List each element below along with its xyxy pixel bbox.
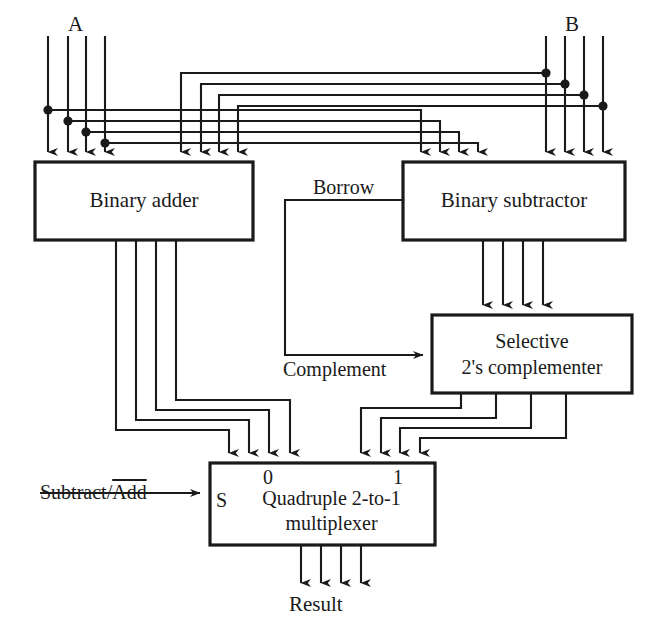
junction-dots-b bbox=[541, 68, 607, 110]
mux-port-label-1: 1 bbox=[393, 466, 403, 489]
wire-adder-to-mux bbox=[116, 240, 290, 453]
junction-dots-a bbox=[43, 105, 109, 147]
select-signal-label: Subtract/Add bbox=[20, 458, 147, 527]
wire-subtractor-to-complementer bbox=[483, 240, 543, 305]
complement-label: Complement bbox=[283, 358, 386, 381]
mux-select-pin-label: S bbox=[216, 489, 227, 512]
select-signal-prefix: Subtract/ bbox=[40, 481, 112, 503]
output-label-result: Result bbox=[289, 592, 343, 617]
block-diagram-canvas: A B Binary adder Binary subtractor Selec… bbox=[0, 0, 652, 637]
wire-complementer-to-mux bbox=[361, 393, 566, 453]
circuit-wiring bbox=[0, 0, 652, 637]
wire-mux-result bbox=[301, 545, 361, 583]
input-label-a: A bbox=[68, 12, 83, 37]
input-label-b: B bbox=[565, 12, 579, 37]
borrow-label: Borrow bbox=[313, 176, 374, 199]
wire-group-b-inputs bbox=[181, 36, 603, 152]
mux-port-label-0: 0 bbox=[263, 466, 273, 489]
select-signal-overlined: Add bbox=[112, 481, 146, 503]
